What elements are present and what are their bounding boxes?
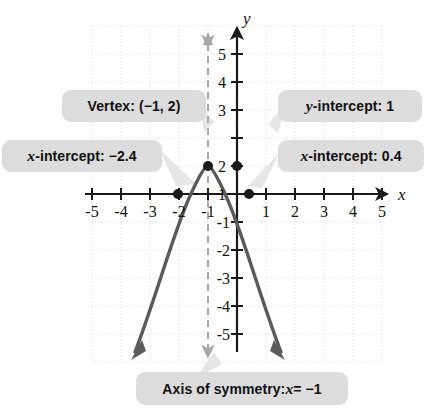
coordinate-axes	[85, 30, 385, 352]
point-x-intercept-left	[173, 189, 183, 199]
callout-xint-right-var: x	[300, 148, 308, 164]
callout-axis-of-symmetry: Axis of symmetry: x = −1	[136, 372, 348, 405]
y-axis-label: y	[241, 9, 251, 28]
x-tick-label: 3	[320, 203, 328, 220]
point-y-intercept	[232, 161, 242, 171]
y-tick-label: -4	[217, 298, 230, 315]
x-tick-label: -5	[85, 203, 98, 220]
callout-axis-var: x	[285, 381, 293, 397]
callout-axis-prefix: Axis of symmetry:	[162, 382, 285, 396]
x-tick-label: -2	[172, 203, 185, 220]
callout-xint-left-var: x	[27, 148, 35, 164]
callout-xint-right-text: -intercept: 0.4	[308, 149, 401, 163]
x-tick-label: 1	[262, 203, 270, 220]
callout-vertex: Vertex: (−1, 2)	[62, 90, 206, 122]
x-tick-label: -1	[201, 203, 214, 220]
y-tick-label: -1	[217, 214, 230, 231]
y-tick-label: -3	[217, 270, 230, 287]
callout-x-intercept-left: x-intercept: −2.4	[2, 140, 162, 172]
callout-x-intercept-right: x-intercept: 0.4	[278, 140, 424, 172]
pointer-xint-right	[248, 152, 280, 188]
x-tick-label: -4	[114, 203, 127, 220]
callout-xint-left-text: -intercept: −2.4	[35, 149, 137, 163]
pointer-xint-left	[160, 150, 196, 186]
point-x-intercept-right	[244, 189, 254, 199]
y-tick-label: -2	[217, 242, 230, 259]
y-tick-label: -5	[217, 326, 230, 343]
figure-container: -5 -4 -3 -2 -1 1 2 3 4 5 5 4 3 2 1 -1 -2…	[0, 0, 424, 415]
y-tick-label: 1	[218, 186, 226, 203]
x-axis-label: x	[397, 185, 406, 204]
x-tick-label: 2	[291, 203, 299, 220]
y-tick-label: 2	[218, 158, 226, 175]
y-tick-label: 5	[218, 46, 226, 63]
callout-vertex-text: Vertex: (−1, 2)	[88, 99, 181, 113]
callout-y-intercept: y-intercept: 1	[278, 90, 422, 122]
callout-yint-var: y	[306, 98, 313, 114]
y-tick-label: 4	[218, 74, 226, 91]
x-tick-label: 5	[378, 203, 386, 220]
callout-axis-rest: = −1	[293, 382, 321, 396]
x-tick-label: -3	[143, 203, 156, 220]
callout-yint-text: -intercept: 1	[313, 99, 394, 113]
x-tick-label: 4	[349, 203, 357, 220]
symmetry-arrow-up	[203, 32, 213, 45]
parabola-graph: -5 -4 -3 -2 -1 1 2 3 4 5 5 4 3 2 1 -1 -2…	[0, 0, 424, 415]
y-tick-label: 3	[218, 102, 226, 119]
point-vertex	[203, 161, 213, 171]
